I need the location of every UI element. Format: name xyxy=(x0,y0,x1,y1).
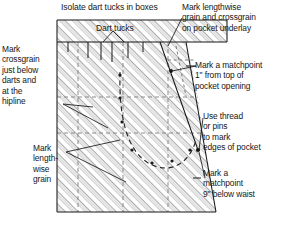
label-matchpoint-nine-inch: Mark a matchpoint 9" below waist xyxy=(203,168,255,199)
label-isolate-dart-tucks: Isolate dart tucks in boxes xyxy=(61,2,158,12)
label-matchpoint-one-inch: Mark a matchpoint 1" from top of pocket … xyxy=(195,60,262,91)
label-use-thread-or-pins: Use thread or pins to mark edges of pock… xyxy=(203,111,261,153)
label-pocket-underlay: Mark lengthwise grain and crossgrain on … xyxy=(182,2,256,33)
label-mark-lengthwise-grain: Mark length- wise grain xyxy=(33,143,58,185)
label-dart-tucks: Dart tucks xyxy=(96,23,134,33)
pattern-diagram: Isolate dart tucks in boxes Dart tucks M… xyxy=(0,0,289,226)
label-mark-crossgrain: Mark crossgrain just below darts and at … xyxy=(2,44,40,106)
pattern-piece-fill xyxy=(57,20,227,212)
